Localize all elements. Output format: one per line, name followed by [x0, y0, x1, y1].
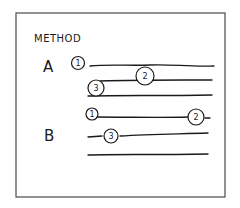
method-b-marker-3: 3 — [104, 129, 118, 143]
svg-text:1: 1 — [75, 59, 80, 68]
svg-text:3: 3 — [93, 84, 98, 93]
svg-text:3: 3 — [108, 132, 113, 141]
method-b-marker-1: 1 — [86, 108, 98, 120]
method-b-marker-2: 2 — [188, 109, 204, 125]
svg-text:2: 2 — [193, 113, 198, 122]
method-a-line-3 — [88, 95, 212, 96]
method-b-line-3 — [88, 154, 208, 155]
method-a-marker-3: 3 — [88, 80, 104, 96]
method-a-marker-1: 1 — [72, 57, 85, 70]
method-a-line-2 — [100, 80, 212, 81]
method-b-label: B — [44, 127, 54, 145]
method-b-line-2 — [120, 133, 208, 136]
diagram-title: METHOD — [34, 33, 81, 44]
method-a-label: A — [43, 58, 54, 76]
method-a-line-1 — [90, 65, 214, 66]
method-b-line-2-lead — [88, 136, 102, 137]
method-a-marker-2: 2 — [136, 67, 154, 85]
method-diagram: METHOD A 1 2 3 B 1 2 3 — [0, 0, 240, 208]
svg-text:2: 2 — [142, 72, 147, 81]
svg-text:1: 1 — [89, 110, 94, 119]
